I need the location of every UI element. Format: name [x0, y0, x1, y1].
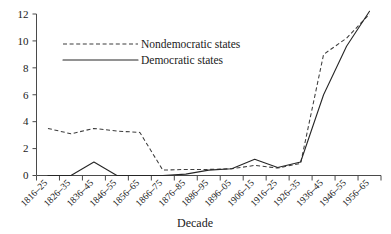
x-axis-title: Decade — [177, 216, 213, 230]
x-axis: 1816–251826–351836–451846–551856–651866–… — [19, 176, 381, 209]
y-tick-label: 0 — [23, 169, 29, 181]
x-axis-tick-labels: 1816–251826–351836–451846–551856–651866–… — [19, 178, 371, 209]
y-tick-label: 2 — [23, 142, 29, 154]
y-tick-label: 12 — [18, 8, 29, 20]
y-tick-label: 10 — [18, 35, 30, 47]
y-axis-ticks — [33, 14, 37, 176]
legend-item-democratic-states: Democratic states — [63, 54, 224, 66]
legend-label-democratic-states: Democratic states — [141, 54, 224, 66]
data-series-group — [48, 11, 370, 175]
y-axis: 024681012 — [18, 8, 37, 182]
y-tick-label: 6 — [23, 89, 29, 101]
chart-legend: Nondemocratic states Democratic states — [63, 38, 241, 66]
legend-label-nondemocratic-states: Nondemocratic states — [141, 38, 241, 50]
y-axis-tick-labels: 024681012 — [18, 8, 30, 182]
y-tick-label: 8 — [23, 62, 29, 74]
line-chart: 024681012 1816–251826–351836–451846–5518… — [0, 0, 391, 234]
legend-item-nondemocratic-states: Nondemocratic states — [63, 38, 241, 50]
chart-canvas: 024681012 1816–251826–351836–451846–5518… — [0, 0, 391, 234]
series-line-democratic-states — [48, 11, 370, 175]
y-tick-label: 4 — [23, 115, 29, 127]
